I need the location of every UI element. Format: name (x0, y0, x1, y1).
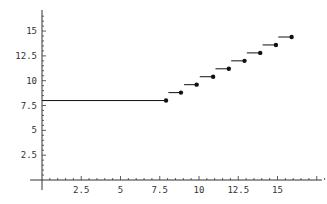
x-tick-label: 10 (194, 185, 205, 195)
data-point (179, 90, 183, 94)
ticks (42, 16, 325, 180)
data-point (258, 51, 262, 55)
y-tick-label: 5 (32, 125, 37, 135)
data-point (274, 43, 278, 47)
data-point (194, 82, 198, 86)
axes (30, 10, 322, 190)
data-point (227, 67, 231, 71)
y-tick-label: 10 (26, 76, 37, 86)
data-point (164, 98, 168, 102)
x-tick-label: 5 (118, 185, 123, 195)
data-series (42, 35, 294, 103)
x-tick-label: 15 (272, 185, 283, 195)
data-point (289, 35, 293, 39)
chart: 2.557.51012.5152.557.51012.515 (0, 0, 327, 204)
x-tick-label: 2.5 (73, 185, 89, 195)
y-tick-label: 15 (26, 26, 37, 36)
y-tick-label: 7.5 (21, 101, 37, 111)
tick-labels: 2.557.51012.5152.557.51012.515 (15, 26, 283, 195)
y-tick-label: 12.5 (15, 51, 37, 61)
x-tick-label: 12.5 (227, 185, 249, 195)
y-tick-label: 2.5 (21, 150, 37, 160)
x-tick-label: 7.5 (152, 185, 168, 195)
data-point (242, 59, 246, 63)
data-point (211, 75, 215, 79)
